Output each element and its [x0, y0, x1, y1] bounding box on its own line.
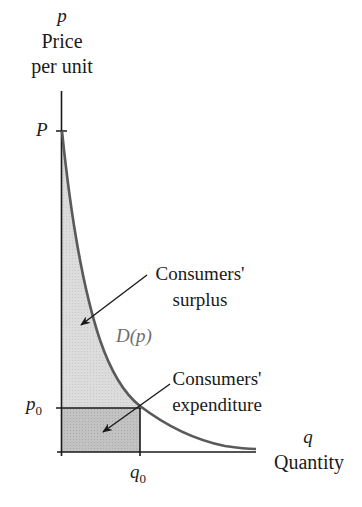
expenditure-label-line2: expenditure — [162, 395, 272, 414]
surplus-label-line2: surplus — [148, 290, 252, 309]
y-axis-symbol: p — [52, 6, 72, 25]
p0-symbol: p — [26, 393, 36, 414]
x-axis-label: Quantity — [268, 452, 350, 472]
q0-subscript: 0 — [140, 471, 147, 486]
y-axis-label-line2: per unit — [12, 56, 112, 76]
x-axis-symbol: q — [298, 427, 318, 446]
surplus-arrow — [81, 275, 147, 325]
demand-curve-label: D(p) — [116, 326, 152, 345]
q0-label: q0 — [130, 462, 146, 481]
surplus-label-line1: Consumers' — [148, 264, 252, 283]
p0-subscript: 0 — [36, 403, 43, 418]
p-tick-label: P — [36, 120, 48, 139]
p0-label: p0 — [26, 394, 42, 413]
q0-symbol: q — [130, 461, 140, 482]
consumers-surplus-region — [62, 131, 140, 408]
expenditure-label-line1: Consumers' — [162, 369, 272, 388]
y-axis-label-line1: Price — [22, 31, 102, 51]
